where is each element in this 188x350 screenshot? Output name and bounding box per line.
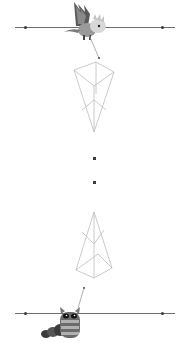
center-dot-upper[interactable] (93, 157, 96, 160)
game-stage (0, 0, 188, 350)
bottom-track-right-dot[interactable] (161, 312, 164, 315)
bottom-track-left-dot[interactable] (24, 312, 27, 315)
top-prism-wireframe (72, 60, 116, 140)
caterpillar-sprite[interactable] (38, 304, 86, 340)
top-leash (88, 34, 102, 62)
center-dot-lower[interactable] (93, 181, 96, 184)
top-track-left-dot[interactable] (24, 26, 27, 29)
dragon-icon (60, 0, 110, 44)
top-track-right-dot[interactable] (161, 26, 164, 29)
bottom-prism-wireframe (72, 210, 116, 286)
caterpillar-icon (38, 304, 86, 340)
dragon-sprite[interactable] (60, 0, 110, 44)
